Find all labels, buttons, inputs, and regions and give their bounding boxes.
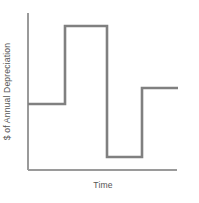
depreciation-step-chart: $ of Annual Depreciation Time — [0, 0, 199, 203]
chart-background — [0, 0, 199, 203]
chart-canvas — [0, 0, 199, 203]
